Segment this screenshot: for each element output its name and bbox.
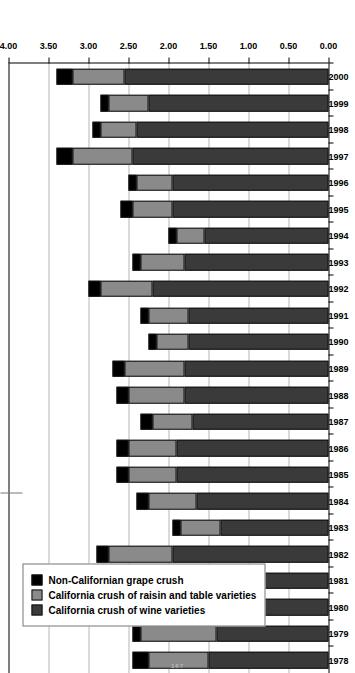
- bar-slot[interactable]: [8, 222, 328, 249]
- bar-segment-wine[interactable]: [136, 121, 328, 137]
- bar-segment-raisin[interactable]: [72, 68, 124, 84]
- bar-segment-noncal[interactable]: [56, 68, 72, 84]
- stacked-bar[interactable]: [8, 174, 328, 190]
- bar-slot[interactable]: [8, 381, 328, 408]
- bar-slot[interactable]: [8, 408, 328, 435]
- bar-segment-noncal[interactable]: [116, 439, 128, 455]
- stacked-bar[interactable]: [8, 280, 328, 296]
- bar-slot[interactable]: [8, 275, 328, 302]
- bar-slot[interactable]: [8, 461, 328, 488]
- stacked-bar[interactable]: [8, 492, 328, 508]
- bar-segment-raisin[interactable]: [140, 625, 216, 641]
- stacked-bar[interactable]: [8, 95, 328, 111]
- bar-segment-noncal[interactable]: [88, 280, 100, 296]
- bar-slot[interactable]: [8, 90, 328, 117]
- stacked-bar[interactable]: [8, 148, 328, 164]
- bar-segment-wine[interactable]: [184, 386, 328, 402]
- bar-slot[interactable]: [8, 116, 328, 143]
- bar-segment-wine[interactable]: [172, 201, 328, 217]
- bar-slot[interactable]: [8, 328, 328, 355]
- bar-segment-raisin[interactable]: [108, 545, 172, 561]
- bar-segment-wine[interactable]: [184, 254, 328, 270]
- bar-segment-noncal[interactable]: [116, 386, 128, 402]
- bar-segment-raisin[interactable]: [128, 439, 176, 455]
- stacked-bar[interactable]: [8, 307, 328, 323]
- bar-segment-noncal[interactable]: [148, 333, 156, 349]
- bar-segment-wine[interactable]: [124, 68, 328, 84]
- bar-segment-wine[interactable]: [196, 492, 328, 508]
- stacked-bar[interactable]: [8, 466, 328, 482]
- stacked-bar[interactable]: [8, 413, 328, 429]
- bar-segment-raisin[interactable]: [148, 492, 196, 508]
- bar-segment-wine[interactable]: [204, 227, 328, 243]
- stacked-bar[interactable]: [8, 201, 328, 217]
- category-tick: [328, 142, 333, 143]
- bar-slot[interactable]: [8, 249, 328, 276]
- bar-slot[interactable]: [8, 514, 328, 541]
- bar-segment-wine[interactable]: [172, 545, 328, 561]
- bar-slot[interactable]: [8, 169, 328, 196]
- bar-segment-raisin[interactable]: [100, 280, 152, 296]
- stacked-bar[interactable]: [8, 360, 328, 376]
- bar-slot[interactable]: [8, 63, 328, 90]
- bar-segment-wine[interactable]: [176, 439, 328, 455]
- stacked-bar[interactable]: [8, 121, 328, 137]
- bar-segment-noncal[interactable]: [140, 307, 148, 323]
- bar-slot[interactable]: [8, 355, 328, 382]
- bar-segment-noncal[interactable]: [172, 519, 180, 535]
- bar-segment-raisin[interactable]: [72, 148, 132, 164]
- bar-segment-noncal[interactable]: [100, 95, 108, 111]
- bar-segment-raisin[interactable]: [156, 333, 188, 349]
- bar-segment-raisin[interactable]: [136, 174, 172, 190]
- bar-slot[interactable]: [8, 434, 328, 461]
- bar-segment-noncal[interactable]: [132, 625, 140, 641]
- bar-segment-raisin[interactable]: [148, 307, 188, 323]
- bar-segment-wine[interactable]: [176, 466, 328, 482]
- bar-segment-wine[interactable]: [152, 280, 328, 296]
- bar-slot[interactable]: [8, 196, 328, 223]
- stacked-bar[interactable]: [8, 333, 328, 349]
- bar-segment-wine[interactable]: [192, 413, 328, 429]
- bar-segment-wine[interactable]: [216, 625, 328, 641]
- bar-segment-raisin[interactable]: [128, 386, 184, 402]
- bar-segment-noncal[interactable]: [136, 492, 148, 508]
- bar-segment-wine[interactable]: [220, 519, 328, 535]
- bar-segment-noncal[interactable]: [168, 227, 176, 243]
- bar-segment-raisin[interactable]: [180, 519, 220, 535]
- bar-segment-noncal[interactable]: [140, 413, 152, 429]
- bar-segment-raisin[interactable]: [128, 466, 176, 482]
- stacked-bar[interactable]: [8, 386, 328, 402]
- bar-segment-raisin[interactable]: [124, 360, 184, 376]
- bar-segment-wine[interactable]: [184, 360, 328, 376]
- bar-segment-wine[interactable]: [132, 148, 328, 164]
- bar-segment-noncal[interactable]: [132, 254, 140, 270]
- bar-slot[interactable]: [8, 143, 328, 170]
- stacked-bar[interactable]: [8, 227, 328, 243]
- stacked-bar[interactable]: [8, 439, 328, 455]
- bar-segment-noncal[interactable]: [116, 466, 128, 482]
- stacked-bar[interactable]: [8, 625, 328, 641]
- bar-segment-wine[interactable]: [148, 95, 328, 111]
- stacked-bar[interactable]: [8, 519, 328, 535]
- bar-segment-noncal[interactable]: [56, 148, 72, 164]
- bar-segment-raisin[interactable]: [100, 121, 136, 137]
- bar-segment-wine[interactable]: [188, 333, 328, 349]
- bar-segment-raisin[interactable]: [140, 254, 184, 270]
- bar-segment-raisin[interactable]: [152, 413, 192, 429]
- bar-slot[interactable]: [8, 646, 328, 673]
- bar-segment-raisin[interactable]: [176, 227, 204, 243]
- bar-slot[interactable]: [8, 487, 328, 514]
- bar-segment-wine[interactable]: [172, 174, 328, 190]
- bar-segment-wine[interactable]: [188, 307, 328, 323]
- bar-segment-noncal[interactable]: [128, 174, 136, 190]
- stacked-bar[interactable]: [8, 254, 328, 270]
- bar-segment-noncal[interactable]: [112, 360, 124, 376]
- bar-segment-raisin[interactable]: [132, 201, 172, 217]
- stacked-bar[interactable]: [8, 545, 328, 561]
- bar-segment-noncal[interactable]: [96, 545, 108, 561]
- bar-segment-raisin[interactable]: [108, 95, 148, 111]
- bar-slot[interactable]: [8, 302, 328, 329]
- bar-segment-noncal[interactable]: [120, 201, 132, 217]
- stacked-bar[interactable]: [8, 68, 328, 84]
- bar-segment-noncal[interactable]: [92, 121, 100, 137]
